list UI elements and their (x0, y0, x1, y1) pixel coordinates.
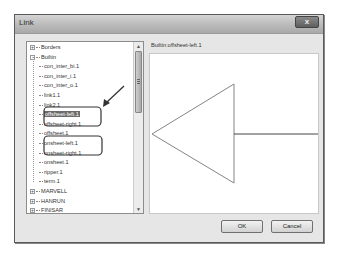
symbol-preview (149, 53, 319, 214)
tree-connector (39, 133, 43, 134)
window-title: Link (19, 18, 34, 27)
tree-node[interactable]: con_inter_bi.1 (39, 62, 79, 71)
tree-connector (36, 57, 40, 58)
tree-node-label: offsheet.1 (44, 130, 68, 136)
link-dialog: Link x +Borders-Builtincon_inter_bi.1con… (14, 14, 324, 243)
library-tree[interactable]: +Borders-Builtincon_inter_bi.1con_inter_… (26, 41, 144, 214)
tree-connector (39, 95, 43, 96)
scroll-down-button[interactable]: ▼ (134, 205, 143, 213)
tree-node[interactable]: link2.1 (39, 101, 60, 110)
offsheet-left-symbol-icon (150, 54, 320, 215)
tree-node[interactable]: term.1 (39, 177, 60, 186)
tree-node-label: term.1 (44, 178, 60, 184)
tree-connector (39, 153, 43, 154)
tree-node[interactable]: offsheet.1 (39, 129, 68, 138)
tree-node[interactable]: onsheet-right.1 (39, 149, 81, 158)
tree-node-label: onsheet-right.1 (44, 150, 81, 156)
tree-connector (39, 85, 43, 86)
tree-node-label: ripper.1 (44, 169, 63, 175)
tree-node[interactable]: con_inter_o.1 (39, 81, 78, 90)
tree-node-label: FINISAR (41, 207, 63, 213)
tree-connector (36, 210, 40, 211)
tree-node[interactable]: +FINISAR (30, 206, 63, 213)
grip-line (137, 79, 140, 80)
tree-connector (39, 114, 43, 115)
expand-icon[interactable]: + (30, 199, 35, 204)
tree-node[interactable]: +MARVELL (30, 187, 67, 196)
scroll-up-icon: ▲ (136, 43, 141, 49)
tree-node[interactable]: offsheet-left.1 (39, 110, 80, 119)
tree-connector (39, 76, 43, 77)
tree-node[interactable]: con_inter_i.1 (39, 72, 76, 81)
tree-node-label: link2.1 (44, 102, 60, 108)
ok-button[interactable]: OK (221, 220, 263, 233)
grip-line (137, 83, 140, 84)
tree-node-label: con_inter_i.1 (44, 73, 76, 79)
tree-node-label: Builtin (41, 54, 56, 60)
scroll-thumb[interactable] (135, 51, 142, 113)
tree-node-label: Borders (41, 44, 61, 50)
tree-connector (39, 66, 43, 67)
scroll-up-button[interactable]: ▲ (134, 42, 143, 50)
tree-connector (39, 162, 43, 163)
tree-node-label: offsheet-left.1 (44, 111, 80, 117)
tree-node[interactable]: +HANRUN (30, 197, 65, 206)
scroll-down-icon: ▼ (136, 206, 141, 212)
close-button[interactable]: x (295, 16, 319, 28)
tree-node-label: link1.1 (44, 92, 60, 98)
expand-icon[interactable]: + (30, 189, 35, 194)
tree-connector (39, 124, 43, 125)
tree-connector (39, 172, 43, 173)
tree-node[interactable]: onsheet-left.1 (39, 139, 78, 148)
close-icon: x (305, 17, 309, 26)
grip-line (137, 81, 140, 82)
tree-node-label: MARVELL (41, 188, 67, 194)
tree-node-label: onsheet-left.1 (44, 140, 78, 146)
tree-scrollbar[interactable]: ▲ ▼ (133, 42, 143, 213)
tree-node[interactable]: onsheet.1 (39, 158, 69, 167)
expand-icon[interactable]: + (30, 45, 35, 50)
tree-connector (39, 181, 43, 182)
tree-connector (36, 47, 40, 48)
tree-node-label: HANRUN (41, 198, 65, 204)
tree-connector (36, 201, 40, 202)
tree-node-label: con_inter_bi.1 (44, 63, 79, 69)
expand-icon[interactable]: + (30, 208, 35, 213)
tree-node[interactable]: ripper.1 (39, 168, 63, 177)
tree-node[interactable]: link1.1 (39, 91, 60, 100)
tree-node-label: onsheet.1 (44, 159, 69, 165)
tree-connector (36, 191, 40, 192)
tree-connector (39, 105, 43, 106)
title-bar[interactable]: Link x (15, 15, 323, 34)
cancel-button[interactable]: Cancel (271, 220, 313, 233)
tree-node-label: offsheet-right.1 (44, 121, 81, 127)
tree-connector (39, 143, 43, 144)
tree-node-label: con_inter_o.1 (44, 82, 78, 88)
preview-label: Builtin:offsheet-left.1 (151, 42, 202, 48)
tree-vertical-connector (33, 57, 34, 182)
tree-list: +Borders-Builtincon_inter_bi.1con_inter_… (27, 42, 133, 213)
tree-node[interactable]: +Borders (30, 43, 61, 52)
tree-node[interactable]: offsheet-right.1 (39, 120, 81, 129)
